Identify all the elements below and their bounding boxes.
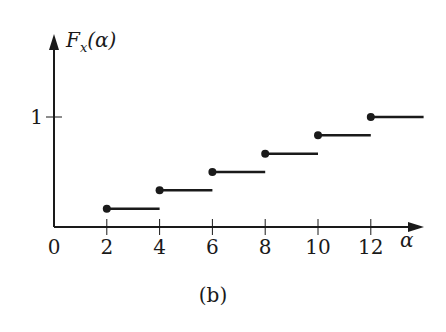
x-tick-label: 0 — [48, 235, 61, 259]
x-tick-label: 6 — [206, 235, 219, 259]
cdf-step-chart: 0246810121Fx(α)α(b) — [0, 0, 446, 332]
step-dot — [314, 131, 322, 139]
x-tick-label: 4 — [153, 235, 166, 259]
y-axis-arrow-icon — [49, 34, 59, 50]
step-dot — [367, 113, 375, 121]
step-dot — [261, 150, 269, 158]
x-tick-label: 2 — [100, 235, 113, 259]
x-axis-label: α — [400, 228, 414, 252]
step-dot — [208, 168, 216, 176]
y-axis-label: Fx(α) — [65, 28, 116, 55]
step-dot — [103, 205, 111, 213]
y-tick-label: 1 — [30, 105, 43, 129]
x-tick-label: 10 — [305, 235, 330, 259]
x-tick-label: 8 — [259, 235, 272, 259]
x-tick-label: 12 — [358, 235, 383, 259]
figure-caption: (b) — [199, 283, 227, 307]
step-dot — [156, 186, 164, 194]
